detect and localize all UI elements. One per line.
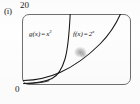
curve-label-cubic: g(x)=x3 — [29, 30, 52, 38]
curve-label-cubic-name: g(x) — [29, 30, 40, 38]
curve-label-exponential: f(x)=2x — [73, 30, 94, 38]
curve-cubic — [24, 14, 70, 84]
y-axis-max-tick-label: 20 — [20, 1, 29, 10]
curve-exponential — [24, 14, 121, 81]
figure-container: (i) 20 0 g(x)=x3 f(x)=2x — [0, 0, 140, 104]
curve-label-exponential-name: f(x) — [73, 30, 83, 38]
part-label: (i) — [4, 7, 12, 16]
plot-curves-svg — [22, 14, 131, 85]
curve-label-exponential-exponent: x — [92, 29, 94, 34]
curve-label-cubic-exponent: 3 — [49, 29, 51, 34]
origin-tick-label: 0 — [15, 85, 20, 94]
